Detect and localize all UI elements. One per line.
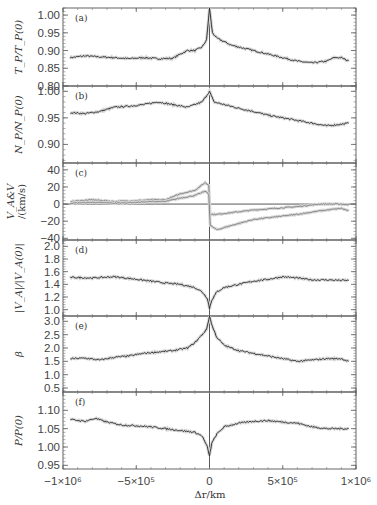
x-tick-label: 1×10⁶	[341, 475, 372, 487]
panel-e: 0.51.01.52.02.53.0(e)β	[13, 315, 356, 394]
y-tick-label: 1.8	[44, 253, 60, 265]
y-tick-label: 1.05	[38, 423, 60, 435]
y-tick-label: 2.0	[44, 240, 60, 252]
y-tick-label: 40	[47, 164, 60, 176]
panel-tag: (c)	[75, 168, 87, 178]
x-tick-label: 5×10⁵	[267, 475, 298, 487]
panels: 0.800.850.900.951.00(a)T_P/T_P(0)0.900.9…	[5, 8, 356, 472]
y-tick-label: 1.5	[44, 355, 60, 367]
y-axis-unit-label: /(km/s)	[16, 184, 27, 219]
y-tick-label: 2.0	[44, 342, 60, 354]
y-tick-label: 0.95	[38, 112, 60, 124]
panel-tag: (a)	[75, 13, 87, 23]
panel-tag: (b)	[75, 91, 88, 101]
y-axis-label: β	[13, 351, 24, 358]
x-axis: −1×10⁶−5×10⁵05×10⁵1×10⁶	[44, 475, 371, 487]
panel-a: 0.800.850.900.951.00(a)T_P/T_P(0)	[13, 8, 356, 92]
y-tick-label: 1.2	[44, 291, 60, 303]
y-tick-label: 2.5	[44, 329, 60, 341]
x-tick-label: −5×10⁵	[118, 475, 156, 487]
panel-b: 0.900.951.00(b)N_P/N_P(0)	[13, 85, 356, 163]
y-tick-label: 1.10	[38, 404, 60, 416]
x-tick-label: 0	[206, 475, 212, 487]
y-tick-label: 1.6	[44, 266, 60, 278]
y-axis-label: N_P/N_P(0)	[13, 95, 25, 155]
panel-f: 0.951.001.051.10(f)P/P(0)	[13, 392, 356, 471]
y-tick-label: 1.00	[38, 9, 60, 21]
panel-tag: (e)	[75, 321, 87, 331]
panel-c: −40−2002040(c)V_A&V/(km/s)	[5, 163, 356, 244]
y-tick-label: 20	[47, 181, 60, 193]
y-tick-label: 0.95	[38, 27, 60, 39]
y-tick-label: 0.5	[44, 382, 60, 394]
stacked-line-chart: 0.800.850.900.951.00(a)T_P/T_P(0)0.900.9…	[0, 0, 377, 505]
y-axis-label: |V_A|/|V_A(0)|	[13, 243, 25, 313]
y-tick-label: 3.0	[44, 315, 60, 327]
y-tick-label: 1.00	[38, 441, 60, 453]
panel-d: 1.01.21.41.61.82.0(d)|V_A|/|V_A(0)|	[13, 240, 356, 316]
panel-tag: (d)	[75, 245, 88, 255]
y-tick-label: 1.0	[44, 369, 60, 381]
y-tick-label: −20	[40, 215, 60, 227]
y-tick-label: 1.0	[44, 304, 60, 316]
y-tick-label: 0.85	[38, 62, 60, 74]
y-tick-label: 0.95	[38, 459, 60, 471]
y-tick-label: 0.90	[38, 45, 60, 57]
x-axis-label: Δr/km	[195, 489, 226, 500]
panel-tag: (f)	[75, 397, 85, 407]
x-tick-label: −1×10⁶	[44, 475, 82, 487]
y-tick-label: 1.00	[38, 85, 60, 97]
y-tick-label: 0.90	[38, 138, 60, 150]
y-axis-label: T_P/T_P(0)	[13, 20, 25, 74]
y-tick-label: 1.4	[44, 278, 61, 290]
y-axis-label: P/P(0)	[13, 415, 24, 447]
y-tick-label: 0	[54, 198, 60, 210]
